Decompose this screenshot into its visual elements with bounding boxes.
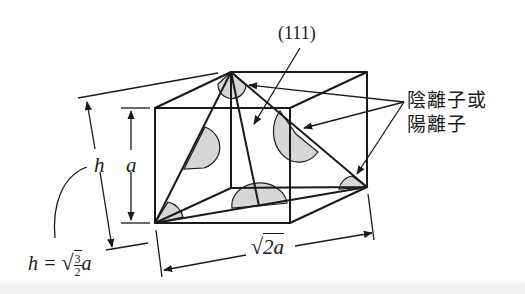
edge-symbol: a — [126, 153, 137, 178]
ion-label-line1: 陰離子或 — [407, 88, 487, 112]
sqrt-icon: √ — [62, 250, 74, 275]
ion-label: 陰離子或 陽離子 — [407, 88, 487, 136]
formula-radicand: 32 — [74, 250, 82, 278]
miller-index-label: (111) — [278, 23, 316, 44]
formula-lhs: h = — [28, 252, 62, 274]
sqrt-icon: √ — [251, 234, 263, 259]
width-value: 2a — [263, 233, 284, 260]
leader-arrows — [249, 48, 404, 174]
height-formula: h = √32a — [28, 250, 92, 278]
height-symbol: h — [94, 153, 105, 178]
ion-right-face — [273, 111, 318, 162]
ion-label-line2: 陽離子 — [407, 112, 487, 136]
diagram-canvas: (111) 陰離子或 陽離子 h a h = √32a √2a — [0, 0, 525, 294]
formula-fraction: 32 — [74, 253, 82, 278]
width-dimension-label: √2a — [251, 233, 284, 260]
ion-left-face — [184, 127, 220, 169]
formula-var: a — [82, 252, 92, 274]
